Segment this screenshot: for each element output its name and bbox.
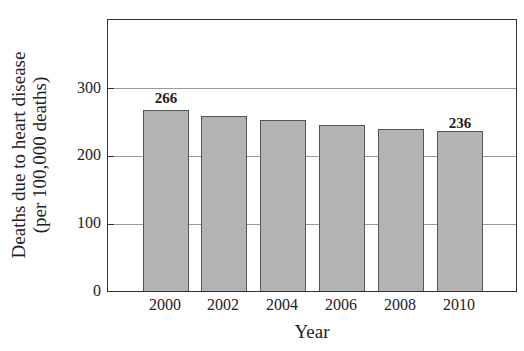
bar-2002 — [201, 116, 247, 291]
y-tick-200: 200 — [51, 147, 101, 163]
y-tick-0: 0 — [51, 283, 101, 299]
tick-100 — [108, 224, 114, 225]
plot-area: 266 236 — [107, 19, 517, 292]
bar-value-label-2000: 266 — [143, 91, 189, 106]
bar-2008 — [378, 129, 424, 291]
x-tick-2002: 2002 — [193, 297, 253, 313]
y-axis-label: Deaths due to heart disease (per 100,000… — [4, 20, 54, 290]
x-tick-2006: 2006 — [311, 297, 371, 313]
x-tick-2004: 2004 — [252, 297, 312, 313]
gridline-300 — [108, 88, 516, 89]
bar-2004 — [260, 120, 306, 291]
y-tick-300: 300 — [51, 80, 101, 96]
y-axis-label-line1: Deaths due to heart disease — [8, 20, 29, 290]
tick-200 — [108, 156, 114, 157]
x-tick-2008: 2008 — [370, 297, 430, 313]
y-axis-label-line2: (per 100,000 deaths) — [29, 20, 50, 290]
tick-300 — [108, 88, 114, 89]
x-tick-2000: 2000 — [135, 297, 195, 313]
x-tick-2010: 2010 — [429, 297, 489, 313]
bar-2010 — [437, 131, 483, 291]
bar-2000 — [143, 110, 189, 291]
bar-value-label-2010: 236 — [437, 116, 483, 131]
y-tick-100: 100 — [51, 215, 101, 231]
bar-2006 — [319, 125, 365, 291]
x-axis-label: Year — [107, 322, 517, 341]
